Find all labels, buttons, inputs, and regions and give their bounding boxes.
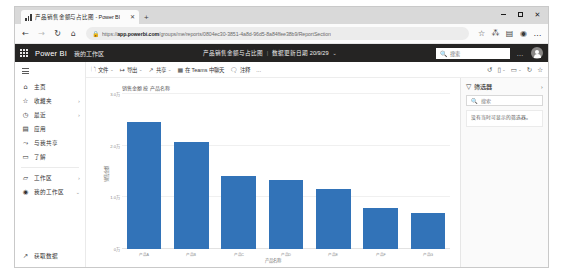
report-toolbar: 🗋 文件 ⌄ ↦ 导出 ⌄ ↗ 共享 ⌄ ▦ [86,62,548,78]
bar-slot: 产品C [217,94,261,249]
sidebar-item-workspaces[interactable]: ▱ 工作区 › [15,171,85,185]
bookmark-view-icon[interactable]: ▯ ⌄ [497,66,505,74]
sidebar-spacer [15,199,85,250]
bar[interactable] [269,180,304,249]
workspace-label[interactable]: 我的工作区 [74,49,104,58]
bar[interactable] [127,122,162,249]
sidebar-item-shared-with-me[interactable]: ⤳ 与我共享 [15,136,85,150]
home-icon[interactable]: ⌂ [67,27,80,40]
search-icon: 🔍 [440,50,447,57]
sidebar-item-favorites[interactable]: ☆ 收藏夹 › [15,94,85,108]
bookmark-glyph: ▯ [497,66,501,74]
bar[interactable] [363,208,398,249]
plot-area: 0万1.0万2.0万3.0万 产品A产品B产品C产品D产品E产品F产品G [122,94,450,249]
bar-chart-visual[interactable]: 销售金额 按 产品名称 销售金额 0万1.0万2.0万3.0万 产品A产品B产品… [92,82,454,265]
x-axis-tick-label: 产品G [423,251,433,257]
chevron-right-icon[interactable]: › [78,175,80,181]
browser-addressbar: ← → ↻ ⌂ 🔒 https://app.powerbi.com/groups… [15,24,548,44]
chevron-down-icon: ⌄ [502,67,506,72]
favorites-bar-icon[interactable]: ▤ [503,27,516,40]
avatar[interactable] [531,47,543,59]
report-column: 🗋 文件 ⌄ ↦ 导出 ⌄ ↗ 共享 ⌄ ▦ [86,62,548,267]
sidebar-item-my-workspace[interactable]: ◉ 我的工作区 ⌄ [15,185,85,199]
powerbi-brand[interactable]: Power BI [35,49,67,58]
chevron-right-icon[interactable]: › [78,112,80,118]
chevron-right-icon[interactable]: › [541,84,543,90]
reload-icon[interactable]: ↻ [51,27,64,40]
search-icon: 🔍 [471,98,478,104]
refresh-icon[interactable]: ↻ [527,66,532,74]
chevron-right-icon[interactable]: › [78,98,80,104]
sidebar-item-apps[interactable]: ▤ 应用 [15,122,85,136]
app-launcher-icon[interactable] [20,49,28,57]
bar[interactable] [316,189,351,249]
bar-slot: 产品B [169,94,213,249]
y-axis-tick-label: 0万 [114,246,120,252]
new-tab-button[interactable]: + [144,14,149,22]
favorite-star-icon[interactable]: ☆ [475,27,488,40]
chart-title: 销售金额 按 产品名称 [122,84,170,91]
tab-close-icon[interactable]: ✕ [130,14,135,20]
chevron-down-icon[interactable]: ⌄ [76,189,80,195]
reset-icon[interactable]: ↺ [487,66,492,74]
report-title: 产品销售金额与占比图 [203,49,263,57]
x-axis-tick-label: 产品E [328,251,338,257]
book-icon: ▭ [22,153,29,160]
chevron-down-icon: ⌄ [139,67,143,72]
powerbi-topbar: Power BI 我的工作区 产品销售金额与占比图 | 数据更新日期 20/9/… [15,44,548,62]
sidebar-item-home[interactable]: ⌂ 主页 [15,80,85,94]
powerbi-body: ⌂ 主页 ☆ 收藏夹 › ◷ 最近 › ▤ 应用 [15,62,548,267]
toolbar-export-button[interactable]: ↦ 导出 ⌄ [120,66,143,74]
view-icon[interactable]: ▭ ⌄ [511,66,522,74]
collections-icon[interactable]: ⁂ [489,27,502,40]
toolbar-share-button[interactable]: ↗ 共享 ⌄ [149,66,172,74]
topbar-more-icon[interactable]: … [517,50,525,57]
bar-slot: 产品E [311,94,355,249]
tab-title: 产品销售金额与占比图 - Power BI [35,13,120,21]
browser-tab[interactable]: 产品销售金额与占比图 - Power BI ✕ [21,10,139,24]
window-minimize-button[interactable] [495,8,512,21]
toolbar-teams-chat-button[interactable]: ▦ 在 Teams 中聊天 [177,66,224,74]
x-axis-tick-label: 产品F [376,251,386,257]
workspaces-icon: ▱ [22,174,29,181]
file-icon: 🗋 [91,65,96,75]
toolbar-comments-button[interactable]: 🗨 注释 [230,66,250,74]
sidebar-item-get-data[interactable]: ↗ 获取数据 [15,249,85,267]
sidebar-item-learn[interactable]: ▭ 了解 [15,150,85,164]
url-text: https://app.powerbi.com/groups/me/report… [102,31,331,37]
browser-more-icon[interactable]: … [531,27,544,40]
share-icon: ⤳ [22,139,29,146]
forward-icon[interactable]: → [35,27,48,40]
chart-bars-icon [25,14,32,21]
address-input[interactable]: 🔒 https://app.powerbi.com/groups/me/repo… [86,27,469,40]
topbar-search-input[interactable]: 🔍 搜索 [436,48,510,59]
toolbar-label: 在 Teams 中聊天 [185,66,224,74]
window-close-button[interactable]: ✕ [529,8,546,21]
lock-icon: 🔒 [92,30,99,37]
filters-search-input[interactable]: 🔍 搜索 [466,95,543,106]
filters-header: ▽ 筛选器 › [466,82,543,91]
sidebar-item-label: 应用 [34,125,75,133]
clock-icon: ◷ [22,111,29,118]
chevron-down-icon[interactable]: ⌄ [333,50,337,56]
y-axis-tick-label: 3.0万 [110,91,120,97]
toolbar-file-button[interactable]: 🗋 文件 ⌄ [91,65,114,75]
export-icon: ↦ [120,66,125,73]
sidebar-item-recent[interactable]: ◷ 最近 › [15,108,85,122]
back-icon[interactable]: ← [19,27,32,40]
window-controls: ✕ [495,8,546,21]
toolbar-label: 共享 [156,66,166,74]
hamburger-icon[interactable] [15,65,85,80]
bar[interactable] [221,176,256,249]
comment-icon: 🗨 [230,66,238,73]
sidebar-divider [21,167,79,168]
window-maximize-button[interactable] [512,8,529,21]
filters-title: 筛选器 [474,82,537,91]
favorite-icon[interactable]: ☆ [537,66,543,74]
my-workspace-icon: ◉ [22,188,29,195]
x-axis-tick-label: 产品B [187,251,197,257]
bar[interactable] [411,213,446,249]
toolbar-more-button[interactable]: … [256,67,261,73]
bar[interactable] [174,142,209,249]
browser-profile-icon[interactable]: ◉ [517,27,530,40]
